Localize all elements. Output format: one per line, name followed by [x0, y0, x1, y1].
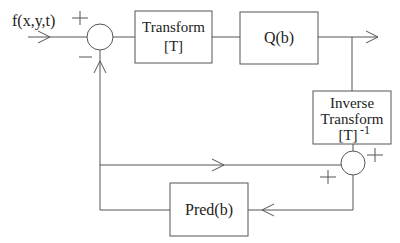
input-signal-label: f(x,y,t) [12, 12, 55, 30]
inverse-transform-label-line1: Inverse [330, 95, 374, 111]
predictor-output-line [100, 50, 170, 210]
reconstruction-feedback-line [248, 175, 353, 210]
inverse-transform-symbol: [T] [338, 127, 357, 143]
predictor-label: Pred(b) [185, 201, 233, 219]
reconstruction-summing-junction [341, 151, 365, 175]
input-summing-junction [87, 24, 113, 50]
transform-label: Transform [142, 19, 205, 35]
transform-symbol: [T] [164, 38, 183, 54]
predictive-transform-coder-diagram: f(x,y,t) Transform [T] Q(b) Inverse Tran… [0, 0, 400, 243]
inverse-transform-label-line2: Transform [321, 111, 384, 127]
inverse-transform-superscript: -1 [360, 123, 370, 137]
quantizer-label: Q(b) [264, 29, 294, 47]
